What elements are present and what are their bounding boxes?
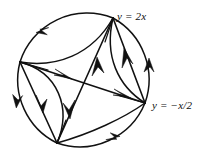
fan-right-a [120, 96, 145, 103]
fan-top-a [105, 18, 113, 42]
arrow-chord-bottom-top-b [63, 100, 75, 119]
inner-curves-group [20, 18, 145, 143]
vertex-fan-strokes [20, 18, 145, 143]
fan-bottom-a [57, 120, 66, 143]
chords-group [20, 18, 145, 143]
label-y-equals-2x: y = 2x [117, 11, 146, 22]
figure-canvas [0, 0, 206, 157]
label-y-equals-minus-x-over-2: y = −x/2 [152, 100, 192, 111]
arrow-circle-upper-left [36, 28, 49, 36]
phase-portrait-figure: y = 2x y = −x/2 [0, 0, 206, 157]
chord-bottom-to-top [57, 18, 113, 143]
arrow-circle-lower-right [106, 133, 120, 141]
outer-circle-group [18, 13, 149, 147]
inner-curve-left-top [20, 18, 113, 63]
